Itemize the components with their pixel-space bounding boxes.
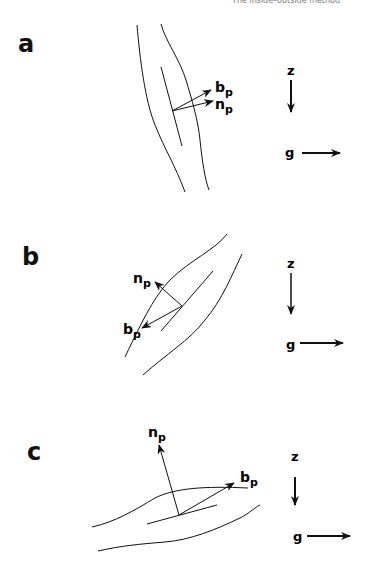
vector-b-arrow [172,90,211,111]
channel-wall-left [137,25,185,192]
vector-label-n: np [148,424,166,444]
axis-label-z: z [287,63,295,78]
axis-label-g: g [285,145,294,160]
channel-wall-lower [98,505,260,551]
vector-b-arrow [142,306,182,328]
particle-line [161,67,182,146]
axis-label-z: z [287,256,295,271]
vector-label-n: np [133,270,151,290]
particle-line [147,505,217,524]
axis-label-g: g [293,529,302,544]
panel-a-diagram: bp np z g [137,24,340,192]
vector-n-arrow [159,445,179,515]
particle-line [161,271,213,331]
panel-c-diagram: np bp z g [92,424,350,551]
vector-label-b: bp [123,321,141,341]
axis-label-g: g [286,337,295,352]
channel-wall-right [161,24,209,190]
axis-label-z: z [291,449,299,464]
channel-wall-lower [143,254,242,375]
channel-wall-upper [92,487,248,527]
vector-label-n: np [215,96,233,116]
figure-canvas: bp np z g np bp z g np bp z g [0,0,372,571]
panel-b-diagram: np bp z g [123,234,343,375]
vector-label-b: bp [240,469,258,489]
